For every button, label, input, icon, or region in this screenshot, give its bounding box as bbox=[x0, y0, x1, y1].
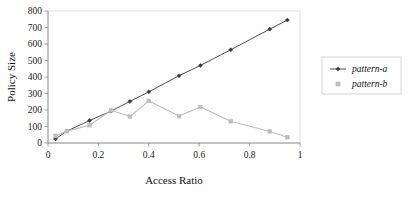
x-axis-title: Access Ratio bbox=[145, 174, 203, 186]
y-tick-label: 100 bbox=[28, 122, 43, 132]
x-tick-label: 0.8 bbox=[244, 150, 256, 160]
data-point-pattern-b bbox=[268, 130, 272, 134]
legend-marker-pattern-b bbox=[336, 82, 340, 86]
chart-figure: 0100200300400500600700800 00.20.40.60.81… bbox=[0, 0, 411, 197]
x-tick-label: 0.2 bbox=[92, 150, 104, 160]
chart-legend: pattern-apattern-b bbox=[322, 57, 401, 94]
legend-label-pattern-a: pattern-a bbox=[351, 64, 388, 74]
x-tick-label: 0.4 bbox=[143, 150, 155, 160]
data-point-pattern-b bbox=[109, 108, 113, 112]
data-point-pattern-b bbox=[65, 129, 69, 133]
policy-size-vs-access-ratio-chart: 0100200300400500600700800 00.20.40.60.81… bbox=[0, 0, 411, 197]
y-tick-label: 0 bbox=[37, 138, 42, 148]
x-tick-label: 0.6 bbox=[193, 150, 205, 160]
chart-background bbox=[0, 0, 411, 197]
data-point-pattern-b bbox=[286, 135, 290, 139]
y-tick-label: 500 bbox=[28, 56, 43, 66]
y-tick-label: 700 bbox=[28, 23, 43, 33]
data-point-pattern-b bbox=[147, 99, 151, 103]
y-tick-label: 300 bbox=[28, 89, 43, 99]
data-point-pattern-b bbox=[177, 114, 181, 118]
y-axis-title: Policy Size bbox=[5, 52, 17, 102]
y-tick-label: 200 bbox=[28, 105, 43, 115]
data-point-pattern-b bbox=[199, 105, 203, 109]
y-tick-label: 800 bbox=[28, 6, 43, 16]
x-tick-label: 0 bbox=[46, 150, 51, 160]
legend-label-pattern-b: pattern-b bbox=[351, 79, 388, 89]
data-point-pattern-b bbox=[128, 115, 132, 119]
data-point-pattern-b bbox=[54, 134, 58, 138]
x-tick-label: 1 bbox=[298, 150, 303, 160]
data-point-pattern-b bbox=[229, 119, 233, 123]
y-tick-label: 600 bbox=[28, 39, 43, 49]
data-point-pattern-b bbox=[88, 123, 92, 127]
y-tick-label: 400 bbox=[28, 72, 43, 82]
